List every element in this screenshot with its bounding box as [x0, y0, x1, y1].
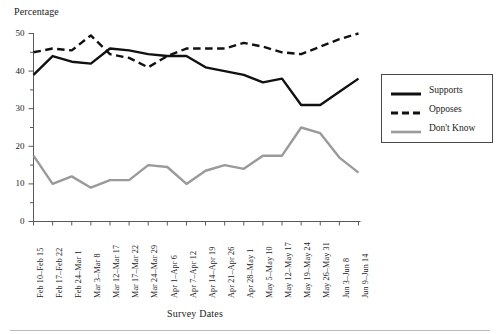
y-axis-tick-label: 0 [5, 217, 25, 226]
footer-divider [10, 330, 490, 331]
legend-swatch-dashed-black-icon [390, 104, 422, 114]
y-axis-tick-label: 20 [5, 142, 25, 151]
legend-label-supports: Supports [429, 85, 463, 95]
y-axis-tick-label: 50 [5, 29, 25, 38]
legend-swatch-solid-gray-icon [390, 123, 422, 133]
chart-plot-area [0, 0, 500, 334]
y-axis-tick-label: 10 [5, 179, 25, 188]
chart-legend: Supports Opposes Don't Know [381, 74, 493, 143]
legend-label-dont-know: Don't Know [429, 123, 475, 133]
series-line-don-t-know [34, 128, 359, 188]
x-axis-title: Survey Dates [0, 308, 390, 319]
legend-item-opposes: Opposes [390, 101, 462, 117]
legend-item-supports: Supports [390, 82, 463, 98]
legend-label-opposes: Opposes [429, 104, 462, 114]
legend-swatch-solid-black-icon [390, 85, 422, 95]
legend-item-dont-know: Don't Know [390, 120, 475, 136]
y-axis-tick-label: 40 [5, 67, 25, 76]
survey-trend-chart: Percentage 50403020100 Feb 10–Feb 15Feb … [0, 0, 500, 334]
series-line-supports [34, 49, 359, 105]
y-axis-tick-label: 30 [5, 104, 25, 113]
